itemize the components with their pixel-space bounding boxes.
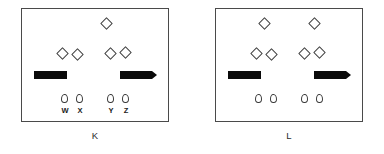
- diamond-marker: [56, 47, 69, 60]
- diamond-marker: [313, 46, 326, 59]
- drop-label-z: Z: [121, 106, 131, 115]
- teardrop-marker: [316, 94, 323, 103]
- teardrop-marker: [270, 94, 277, 103]
- diamond-marker: [298, 47, 311, 60]
- diamond-marker: [265, 48, 278, 61]
- teardrop-marker: [301, 94, 308, 103]
- diamond-marker: [100, 17, 113, 30]
- drop-label-w: W: [60, 106, 70, 115]
- black-bar: [228, 71, 261, 79]
- drop-label-x: X: [75, 106, 85, 115]
- teardrop-marker: [107, 94, 114, 103]
- diamond-marker: [104, 47, 117, 60]
- teardrop-marker: [61, 94, 68, 103]
- drop-label-y: Y: [106, 106, 116, 115]
- figure-container: W X Y Z K L: [0, 0, 384, 154]
- diamond-marker: [250, 47, 263, 60]
- diamond-marker: [71, 48, 84, 61]
- panel-k: W X Y Z: [21, 8, 169, 122]
- panel-l: [215, 8, 363, 122]
- diamond-marker: [308, 17, 321, 30]
- teardrop-marker: [122, 94, 129, 103]
- panel-caption-l: L: [269, 130, 309, 141]
- teardrop-marker: [76, 94, 83, 103]
- black-bar-arrow: [120, 71, 152, 79]
- diamond-marker: [119, 46, 132, 59]
- black-bar: [34, 71, 67, 79]
- black-bar-arrow: [314, 71, 346, 79]
- panel-caption-k: K: [75, 130, 115, 141]
- teardrop-marker: [255, 94, 262, 103]
- diamond-marker: [258, 17, 271, 30]
